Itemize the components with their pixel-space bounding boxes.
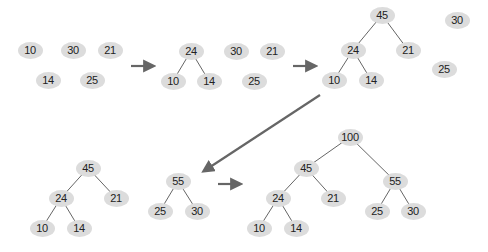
tree-edge [182,188,192,204]
tree-edge [399,188,409,204]
tree-node-10: 10 [18,42,43,59]
tree-node-24: 24 [49,190,74,207]
tree-node-21: 21 [104,190,129,207]
tree-node-24: 24 [179,43,204,60]
tree-edge [66,174,82,192]
tree-edge [282,205,292,221]
tree-node-14: 14 [359,72,384,89]
tree-node-45: 45 [370,7,395,24]
tree-edge [338,57,348,73]
tree-node-25: 25 [242,73,267,90]
tree-node-25: 25 [365,203,390,220]
tree-node-100: 100 [338,129,363,146]
tree-node-30: 30 [185,203,210,220]
tree-node-25: 25 [432,61,457,78]
tree-node-30: 30 [445,12,470,29]
tree-edge [164,188,174,204]
tree-node-14: 14 [197,73,222,90]
tree-edge [387,21,403,43]
tree-edge [65,205,75,221]
tree-edge [357,57,367,73]
tree-node-14: 14 [284,220,309,237]
tree-node-55: 55 [166,173,191,190]
huffman-merge-diagram: 1030211425241014302125452421101430254524… [0,0,488,252]
tree-node-21: 21 [321,190,346,207]
tree-edge [313,142,344,164]
tree-edge [195,58,205,74]
tree-node-55: 55 [383,173,408,190]
tree-edge [283,174,300,192]
tree-node-30: 30 [224,43,249,60]
tree-node-25: 25 [148,203,173,220]
tree-edge [358,21,377,44]
stage-arrows [131,66,320,184]
tree-node-30: 30 [401,203,426,220]
tree-node-30: 30 [61,42,86,59]
tree-edge [263,205,273,221]
tree-edge [311,174,327,192]
tree-edge [356,143,390,176]
tree-node-14: 14 [36,72,61,89]
tree-node-10: 10 [30,220,55,237]
tree-edge [93,174,110,192]
tree-edge [46,205,56,221]
tree-node-45: 45 [76,160,101,177]
tree-edge [177,58,187,74]
tree-node-10: 10 [161,73,186,90]
tree-node-25: 25 [80,72,105,89]
tree-node-24: 24 [266,190,291,207]
tree-edge [381,188,391,204]
tree-node-45: 45 [294,160,319,177]
tree-node-21: 21 [98,42,123,59]
tree-node-24: 24 [341,42,366,59]
tree-node-10: 10 [247,220,272,237]
tree-node-21: 21 [396,42,421,59]
tree-node-14: 14 [67,220,92,237]
tree-node-21: 21 [260,43,285,60]
tree-node-10: 10 [322,72,347,89]
